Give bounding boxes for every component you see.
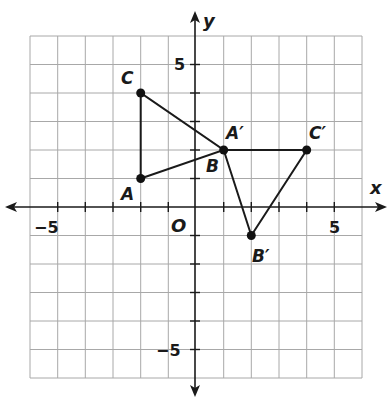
label-a-prime: A′ bbox=[224, 123, 244, 143]
point-c bbox=[136, 89, 145, 98]
origin-label: O bbox=[171, 215, 186, 236]
point-a bbox=[136, 174, 145, 183]
point-b-prime bbox=[247, 231, 256, 240]
coordinate-plane: x y O −5 5 5 −5 A B C A′ B′ C′ bbox=[0, 0, 389, 398]
label-b-prime: B′ bbox=[252, 246, 270, 266]
y-tick-label-5: 5 bbox=[174, 55, 185, 74]
x-tick-label-neg5: −5 bbox=[34, 218, 59, 237]
y-axis-label: y bbox=[203, 10, 216, 31]
x-axis bbox=[5, 202, 387, 212]
label-c: C bbox=[121, 68, 134, 88]
x-tick-label-5: 5 bbox=[329, 218, 340, 237]
label-b: B bbox=[206, 156, 219, 176]
y-tick-label-neg5: −5 bbox=[156, 341, 181, 360]
triangle-a-prime-b-prime-c-prime bbox=[224, 150, 307, 236]
y-axis bbox=[190, 11, 200, 397]
x-axis-label: x bbox=[369, 177, 383, 198]
label-a: A bbox=[119, 184, 134, 204]
point-b-a-prime bbox=[219, 146, 228, 155]
label-c-prime: C′ bbox=[309, 123, 326, 143]
point-c-prime bbox=[302, 146, 311, 155]
